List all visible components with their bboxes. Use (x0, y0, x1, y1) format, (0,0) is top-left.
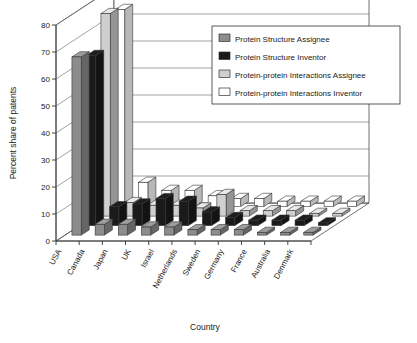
bar-side-face (110, 8, 118, 216)
bar-front-face (281, 232, 290, 235)
bar-front-face (165, 227, 174, 235)
y-axis-title: Percent share of patents (8, 87, 18, 180)
bar-front-face (118, 224, 127, 235)
bar (156, 193, 173, 225)
bar-front-face (347, 201, 356, 206)
chart-legend: Protein Structure AssigneeProtein Struct… (212, 26, 400, 104)
bar-front-face (211, 230, 220, 235)
legend-label: Protein Structure Inventor (235, 53, 326, 62)
legend-item: Protein-protein Interactions Assignee (219, 70, 366, 80)
bar-front-face (324, 201, 333, 206)
bar-side-face (81, 52, 89, 235)
x-category-label: Netherlands (151, 248, 179, 290)
bar-front-face (188, 230, 197, 235)
bar-front-face (72, 57, 81, 235)
y-tick-label: 80 (41, 21, 50, 30)
x-category-label: Israel (139, 248, 156, 270)
y-tick-label: 20 (41, 183, 50, 192)
x-category-label: Germany (202, 248, 225, 281)
bar-front-face (333, 213, 342, 216)
bar-front-face (202, 212, 211, 226)
bar-front-face (257, 232, 266, 235)
legend-swatch (219, 88, 230, 96)
bar-front-face (318, 223, 327, 226)
bar-side-face (125, 4, 133, 206)
x-category-label: Denmark (272, 247, 296, 281)
legend-label: Protein-protein Interactions Inventor (235, 89, 363, 98)
x-category-label: Australia (249, 247, 272, 279)
legend-swatch (219, 70, 230, 78)
bar-front-face (272, 220, 281, 225)
y-tick-label: 60 (41, 75, 50, 84)
y-tick-label: 0 (46, 237, 51, 246)
bar-side-face (165, 193, 173, 225)
bar-front-face (304, 232, 313, 235)
bar (179, 196, 196, 226)
legend-swatch (219, 34, 230, 42)
y-tick-label: 70 (41, 48, 50, 57)
legend-item: Protein Structure Assignee (219, 34, 330, 44)
y-tick-label: 30 (41, 156, 50, 165)
y-tick-label: 40 (41, 129, 50, 138)
x-category-label: UK (120, 247, 133, 262)
legend-label: Protein-protein Interactions Assignee (235, 71, 366, 80)
bar (72, 52, 89, 235)
x-category-label: Sweden (181, 248, 203, 278)
x-axis-title: Country (190, 322, 221, 332)
y-tick-label: 50 (41, 102, 50, 111)
legend-label: Protein Structure Assignee (235, 35, 330, 44)
bar-front-face (141, 227, 150, 235)
legend-swatch (219, 52, 230, 60)
chart-figure: 01020304050607080Percent share of patent… (0, 0, 417, 343)
x-category-label: USA (48, 247, 64, 266)
legend-item: Protein-protein Interactions Inventor (219, 88, 363, 98)
x-category-label: France (229, 247, 249, 274)
legend-item: Protein Structure Inventor (219, 52, 326, 62)
bar-side-face (96, 50, 104, 225)
bar-chart-3d: 01020304050607080Percent share of patent… (0, 0, 417, 343)
x-category-label: Canada (65, 247, 86, 276)
bar-front-face (295, 220, 304, 225)
bar-front-face (95, 224, 104, 235)
x-category-label: Japan (92, 248, 110, 271)
bar-front-face (234, 230, 243, 235)
y-tick-label: 10 (41, 210, 50, 219)
